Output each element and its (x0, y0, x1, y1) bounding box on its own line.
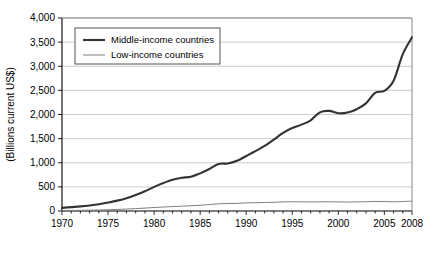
y-tick-label: 500 (38, 181, 55, 192)
y-tick-label: 1,500 (30, 133, 55, 144)
series-line-low-income (62, 201, 412, 210)
x-axis-minor-ticks (62, 211, 412, 215)
x-tick-label: 1985 (189, 218, 212, 229)
x-tick-label: 2000 (327, 218, 350, 229)
x-tick-label: 1990 (235, 218, 258, 229)
x-tick-label: 2008 (401, 218, 424, 229)
x-tick-label: 1995 (281, 218, 304, 229)
chart-container: 05001,0001,5002,0002,5003,0003,5004,000 … (0, 0, 437, 253)
y-axis-title: (Billions current US$) (5, 67, 16, 161)
x-axis-tick-labels: 197019751980198519901995200020052008 (51, 218, 424, 229)
line-chart: 05001,0001,5002,0002,5003,0003,5004,000 … (0, 0, 437, 253)
x-tick-label: 1975 (97, 218, 120, 229)
x-tick-label: 1980 (143, 218, 166, 229)
y-tick-label: 3,500 (30, 37, 55, 48)
y-tick-label: 3,000 (30, 61, 55, 72)
legend-label-low-income: Low-income countries (111, 49, 204, 60)
y-tick-label: 4,000 (30, 12, 55, 23)
x-tick-label: 2005 (373, 218, 396, 229)
y-tick-label: 0 (49, 205, 55, 216)
x-tick-label: 1970 (51, 218, 74, 229)
y-tick-label: 2,500 (30, 85, 55, 96)
y-axis-ticks (58, 18, 62, 211)
y-tick-label: 2,000 (30, 109, 55, 120)
y-axis-title-text: (Billions current US$) (5, 67, 16, 161)
chart-legend: Middle-income countriesLow-income countr… (75, 28, 220, 64)
y-tick-label: 1,000 (30, 157, 55, 168)
y-axis-tick-labels: 05001,0001,5002,0002,5003,0003,5004,000 (30, 12, 55, 216)
legend-label-middle-income: Middle-income countries (111, 34, 214, 45)
